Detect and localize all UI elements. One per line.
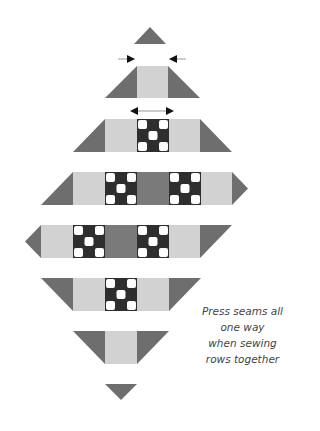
caption-line: one way	[188, 319, 297, 335]
nine-patch-block	[73, 225, 105, 258]
press-arrows-outward	[130, 107, 174, 115]
row-4	[41, 172, 248, 205]
bottom-triangle	[105, 384, 137, 400]
row-2	[105, 66, 200, 98]
light-square	[137, 278, 169, 311]
row-5	[25, 225, 232, 258]
nine-patch-block	[105, 172, 137, 205]
right-triangle	[200, 225, 232, 258]
right-triangle	[168, 66, 200, 98]
row-6	[41, 278, 201, 311]
medium-square	[105, 225, 137, 258]
row-8	[105, 384, 137, 400]
pressing-instruction-caption: Press seams all one way when sewing rows…	[188, 303, 297, 367]
left-triangle	[73, 119, 105, 152]
row-7	[73, 331, 169, 364]
arrow-right-icon	[127, 55, 135, 63]
light-square	[73, 172, 105, 205]
top-triangle	[134, 27, 166, 44]
light-square	[105, 119, 137, 152]
caption-line: when sewing	[188, 335, 297, 351]
point-triangle	[232, 172, 248, 205]
arrow-left-icon	[130, 107, 138, 115]
left-triangle	[73, 331, 105, 364]
right-triangle	[200, 119, 232, 152]
light-square	[105, 331, 137, 364]
caption-line: Press seams all	[188, 303, 297, 319]
caption-line: rows together	[188, 351, 297, 367]
point-triangle	[25, 225, 41, 258]
left-triangle	[41, 278, 73, 311]
light-square	[169, 119, 200, 152]
nine-patch-block	[169, 172, 201, 205]
row-3	[73, 119, 232, 152]
nine-patch-block	[105, 278, 137, 311]
left-triangle	[41, 172, 73, 205]
row-1	[134, 27, 166, 44]
light-square	[137, 66, 168, 98]
light-square	[201, 172, 232, 205]
light-square	[41, 225, 73, 258]
arrow-left-icon	[169, 55, 177, 63]
light-square	[73, 278, 105, 311]
arrow-right-icon	[166, 107, 174, 115]
nine-patch-block	[137, 119, 169, 152]
light-square	[169, 225, 200, 258]
right-triangle	[137, 331, 169, 364]
press-arrows-inward	[118, 55, 186, 63]
nine-patch-block	[137, 225, 169, 258]
left-triangle	[105, 66, 137, 98]
medium-square	[137, 172, 169, 205]
